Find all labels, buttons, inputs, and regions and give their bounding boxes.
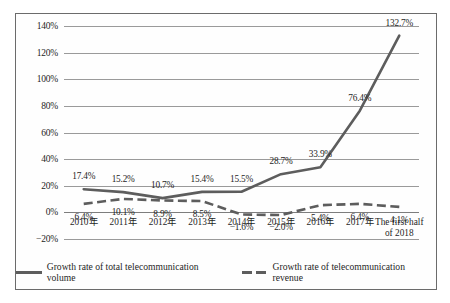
dashed-line-icon [242,271,268,274]
legend-label: Growth rate of telecommunication revenue [273,261,436,283]
gridline--20 [64,239,419,240]
y-tick-label: 80% [41,101,58,111]
y-tick-label: −20% [36,234,58,244]
legend-item[interactable]: Growth rate of total telecommunication v… [16,261,228,283]
y-tick-label: 140% [37,21,58,31]
data-label: 33.9% [309,149,332,159]
data-label: 15.4% [191,174,214,184]
x-tick-label: 2010年 [70,217,98,228]
y-tick-label: 20% [41,181,58,191]
x-tick-label: 2014年 [228,217,256,228]
plot-area: 140%120%100%80%60%40%20%0%−20% 17.4%15.2… [64,26,419,239]
data-label: 15.5% [230,174,253,184]
y-tick-label: 60% [41,128,58,138]
y-tick-label: 120% [37,48,58,58]
data-label: 28.7% [269,156,292,166]
solid-line-icon [16,271,42,274]
data-label: 15.2% [112,174,135,184]
x-tick-label: The first half of 2018 [371,217,427,239]
data-label: 17.4% [72,171,95,181]
chart-legend: Growth rate of total telecommunication v… [16,261,436,283]
legend-item[interactable]: Growth rate of telecommunication revenue [242,261,436,283]
x-tick-label: 2011年 [110,217,137,228]
y-tick-label: 100% [37,74,58,84]
y-tick-label: 0% [46,207,58,217]
data-label: 10.7% [151,180,174,190]
x-tick-label: 2017年 [346,217,374,228]
data-label: 10.1% [112,207,135,217]
legend-label: Growth rate of total telecommunication v… [47,261,228,283]
x-tick-label: 2012年 [149,217,177,228]
x-tick-label: 2015年 [267,217,295,228]
y-tick-label: 40% [41,154,58,164]
x-tick-label: 2013年 [188,217,216,228]
chart-frame: 140%120%100%80%60%40%20%0%−20% 17.4%15.2… [15,13,437,290]
data-label: 132.7% [386,18,413,28]
data-label: 76.4% [348,93,371,103]
x-tick-label: 2016年 [307,217,335,228]
